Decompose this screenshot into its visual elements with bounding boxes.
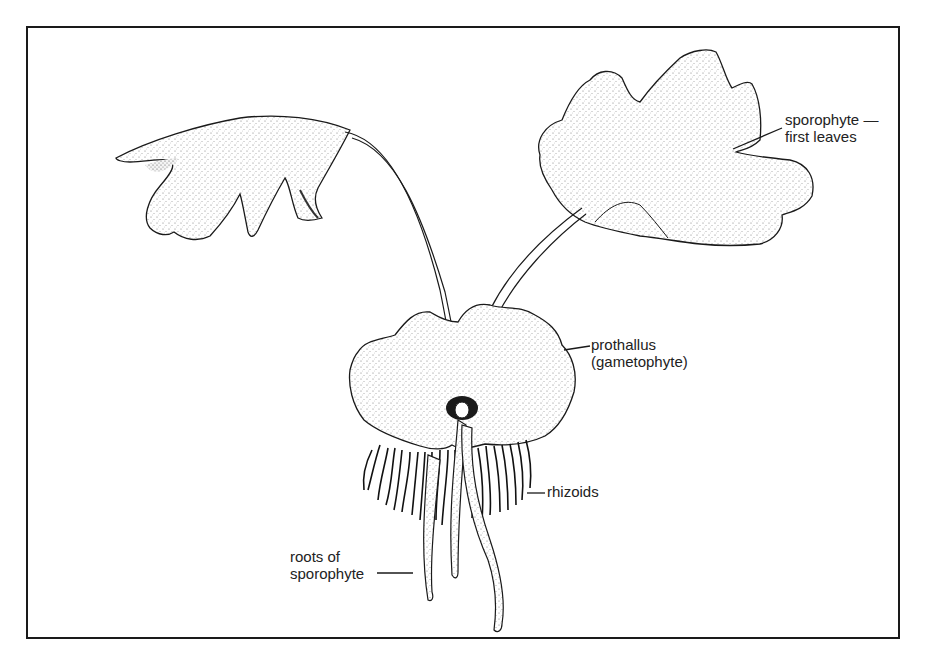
- label-line: sporophyte: [290, 565, 364, 582]
- sporophyte-leaf-right: [539, 50, 813, 246]
- label-rhizoids: rhizoids: [547, 483, 599, 500]
- label-line: (gametophyte): [591, 353, 688, 370]
- sporophyte-roots: [424, 420, 504, 632]
- rhizoids: [363, 440, 530, 525]
- label-line: prothallus: [591, 336, 688, 353]
- sporophyte-leaf-left: [116, 116, 350, 239]
- label-line: roots of: [290, 548, 364, 565]
- label-line: sporophyte —: [785, 111, 878, 128]
- label-sporophyte-first-leaves: sporophyte — first leaves: [785, 111, 878, 145]
- fern-illustration: [0, 0, 928, 666]
- label-line: rhizoids: [547, 483, 599, 500]
- label-prothallus: prothallus (gametophyte): [591, 336, 688, 370]
- label-roots-of-sporophyte: roots of sporophyte: [290, 548, 364, 582]
- label-line: first leaves: [785, 128, 878, 145]
